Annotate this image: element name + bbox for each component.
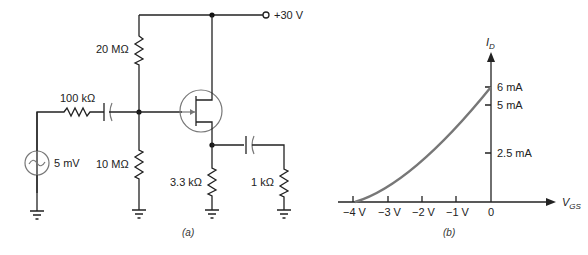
supply-terminal-icon	[263, 12, 269, 18]
y-tick-label: 2.5 mA	[497, 147, 533, 159]
r1-label: 20 MΩ	[96, 43, 129, 55]
rl-label: 1 kΩ	[251, 176, 274, 188]
figure-canvas: +30 V 20 MΩ 100 kΩ 5 mV 10 MΩ	[0, 0, 588, 255]
ground-icon	[205, 210, 219, 218]
chart-b: VGS ID −4 V −3 V −2 V −1 V 0 6 mA 5 mA 2…	[338, 36, 582, 238]
x-tick-label: 0	[488, 206, 494, 218]
x-tick-label: −2 V	[412, 206, 436, 218]
supply-label: +30 V	[274, 9, 304, 21]
y-tick-label: 6 mA	[497, 81, 523, 93]
ground-icon	[277, 210, 291, 218]
jfet-icon	[180, 15, 222, 143]
svg-text:VGS: VGS	[562, 196, 582, 211]
circuit-a: +30 V 20 MΩ 100 kΩ 5 mV 10 MΩ	[25, 9, 304, 238]
svg-text:ID: ID	[486, 36, 495, 51]
resistor-10M-icon	[135, 112, 143, 210]
y-ticks	[485, 87, 491, 153]
ground-icon	[132, 210, 146, 218]
caption-a: (a)	[182, 227, 194, 238]
x-tick-label: −1 V	[446, 206, 470, 218]
y-axis-arrow-icon	[487, 52, 495, 62]
x-tick-label: −4 V	[343, 206, 367, 218]
resistor-3k3-icon	[208, 145, 216, 210]
caption-b: (b)	[443, 227, 455, 238]
rs-label: 3.3 kΩ	[170, 176, 202, 188]
ground-icon	[30, 211, 44, 219]
r-source-label: 100 kΩ	[60, 92, 95, 104]
y-tick-label: 5 mA	[497, 99, 523, 111]
transconductance-curve	[355, 87, 491, 202]
source-label: 5 mV	[54, 157, 80, 169]
x-tick-label: −3 V	[378, 206, 402, 218]
x-axis-arrow-icon	[546, 198, 556, 206]
resistor-20M-icon	[135, 15, 143, 112]
r2-label: 10 MΩ	[96, 158, 129, 170]
